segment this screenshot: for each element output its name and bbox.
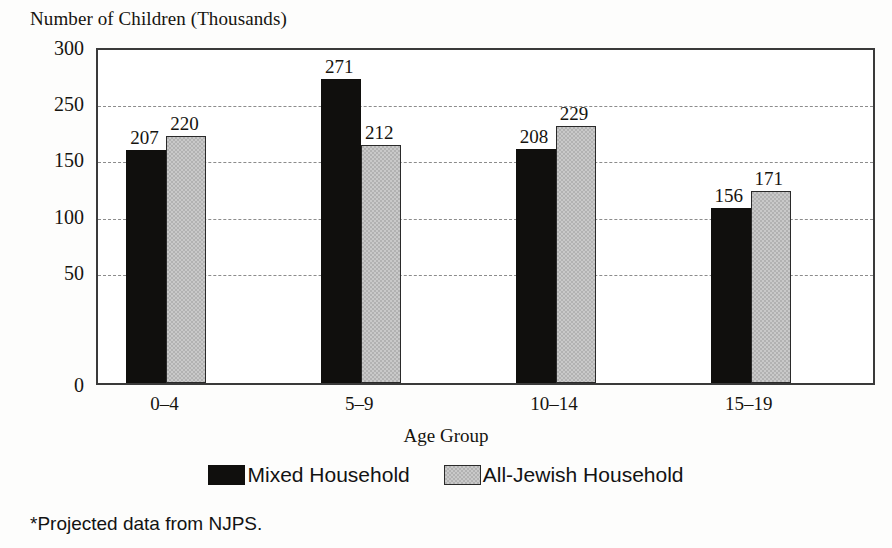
x-category-label: 5–9 (289, 394, 429, 413)
x-category-label: 10–14 (484, 394, 624, 413)
y-axis-title: Number of Children (Thousands) (30, 8, 287, 30)
y-axis-tick-labels: 300250150100500 (6, 48, 84, 385)
legend-entry[interactable]: All-Jewish Household (444, 464, 684, 485)
y-tick-label: 250 (14, 94, 84, 114)
y-tick-label: 300 (14, 38, 84, 58)
legend-label: Mixed Household (247, 464, 409, 485)
legend-label: All-Jewish Household (483, 464, 684, 485)
plot-inner (98, 50, 873, 383)
gridline (98, 106, 873, 107)
chart-legend: Mixed HouseholdAll-Jewish Household (0, 464, 892, 485)
plot-area (96, 48, 875, 385)
bar-alljewish (166, 136, 206, 383)
y-tick-label: 50 (14, 263, 84, 283)
x-category-label: 15–19 (679, 394, 819, 413)
x-axis-title: Age Group (0, 425, 892, 447)
x-category-label: 0–4 (94, 394, 234, 413)
bar-value-label: 271 (309, 57, 369, 76)
y-tick-label: 100 (14, 207, 84, 227)
bar-alljewish (361, 145, 401, 383)
bar-alljewish (556, 126, 596, 383)
legend-swatch-mixed (208, 465, 245, 485)
bar-mixed (516, 149, 556, 383)
bar-alljewish (751, 191, 791, 383)
y-tick-label: 150 (14, 150, 84, 170)
bar-value-label: 220 (154, 114, 214, 133)
legend-entry[interactable]: Mixed Household (208, 464, 409, 485)
gridline (98, 162, 873, 163)
chart-page: Number of Children (Thousands) 300250150… (0, 0, 892, 548)
bar-value-label: 171 (739, 169, 799, 188)
bar-value-label: 208 (504, 127, 564, 146)
bar-value-label: 229 (544, 104, 604, 123)
legend-swatch-alljewish (444, 465, 481, 485)
bar-mixed (126, 150, 166, 383)
bar-mixed (711, 208, 751, 383)
bar-value-label: 212 (349, 123, 409, 142)
footnote: *Projected data from NJPS. (30, 514, 262, 533)
y-tick-label: 0 (14, 375, 84, 395)
bar-value-label: 156 (699, 186, 759, 205)
